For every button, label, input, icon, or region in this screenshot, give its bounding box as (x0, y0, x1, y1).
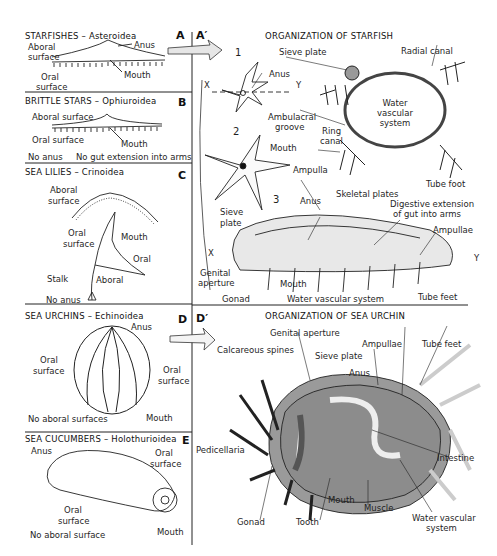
label-anus: Anus (31, 446, 52, 456)
taxon-name: Asteroidea (89, 31, 137, 41)
label-surface: surface (150, 459, 181, 469)
panel-letter-b: B (178, 96, 186, 109)
label-mouth: Mouth (124, 70, 151, 80)
label-ambulacral-groove: Ambulacral (268, 112, 316, 122)
group-name: SEA URCHINS (25, 311, 85, 321)
label-stalk: Stalk (47, 274, 68, 284)
axis-x: X (204, 80, 210, 90)
label-water-vascular-system: Water vascular system (287, 294, 384, 304)
label-ampullae: Ampullae (433, 225, 473, 235)
label-tooth: Tooth (296, 517, 319, 527)
panel-letter-a-prime: A′ (196, 29, 207, 42)
label-mouth: Mouth (270, 143, 297, 153)
label-anus: Anus (131, 322, 152, 332)
note-no-aboral-surfaces: No aboral surfaces (28, 414, 108, 424)
panel-a-title: STARFISHES – Asteroidea (25, 31, 136, 41)
panel-d-title: SEA URCHINS – Echinoidea (25, 311, 144, 321)
panel-letter-d-prime: D′ (196, 312, 208, 325)
label-genital-aperture: Genital (200, 268, 230, 278)
label-surface: surface (33, 366, 64, 376)
label-aboral-arm: Aboral (96, 275, 123, 285)
sea-urchin-drawing (74, 326, 150, 414)
label-sieve-plate: Sieve (220, 207, 243, 217)
panel-letter-e: E (182, 434, 190, 447)
label-calcareous-spines: Calcareous spines (217, 345, 294, 355)
label-skeletal-plates: Skeletal plates (336, 189, 398, 199)
label-genital-aperture: Genital aperture (270, 328, 340, 338)
label-water-vascular: Water (373, 98, 417, 108)
label-ampullae: Ampullae (362, 339, 402, 349)
label-surface: surface (28, 52, 59, 62)
label-surface: surface (48, 196, 79, 206)
label-surface: surface (36, 82, 67, 92)
label-aboral: Aboral (50, 185, 77, 195)
panel-b-title: BRITTLE STARS – Ophiuroidea (25, 96, 156, 106)
group-name: BRITTLE STARS (25, 96, 92, 106)
panel-letter-c: C (178, 169, 186, 182)
axis-y: Y (296, 80, 301, 90)
axis-x: X (208, 248, 214, 258)
label-mouth: Mouth (121, 232, 148, 242)
label-oral-surface: Oral surface (32, 135, 84, 145)
label-sieve-plate: Sieve plate (315, 351, 362, 361)
label-water-vascular-system: Water vascular (412, 513, 476, 523)
label-anus: Anus (134, 40, 155, 50)
figure-number-1: 1 (235, 48, 241, 58)
label-mouth: Mouth (280, 279, 307, 289)
label-muscle: Muscle (364, 503, 393, 513)
label-oral: Oral (155, 448, 173, 458)
label-ring-canal: Ring (322, 126, 341, 136)
label-water-vascular: system (373, 118, 417, 128)
label-surface: surface (158, 376, 189, 386)
label-tube-feet: Tube feet (418, 292, 457, 302)
label-pedicellaria: Pedicellaria (196, 445, 245, 455)
label-digestive-extension: of gut into arms (393, 209, 461, 219)
taxon-name: Ophiuroidea (102, 96, 156, 106)
label-tube-foot: Tube foot (426, 179, 465, 189)
group-name: SEA CUCUMBERS (25, 434, 101, 444)
label-oral-arm: Oral (133, 254, 151, 264)
label-intestine: Intestine (437, 453, 474, 463)
label-sieve-plate: Sieve plate (279, 47, 326, 57)
starfish-arm-section-drawing (233, 215, 453, 292)
label-digestive-extension: Digestive extension (390, 199, 474, 209)
taxon-name: Echinoidea (95, 311, 144, 321)
arrow-a-to-a-prime (168, 40, 222, 60)
label-surface: surface (58, 516, 89, 526)
label-aboral-surface: Aboral surface (32, 112, 94, 122)
label-genital-aperture: aperture (198, 278, 235, 288)
diagram-artwork (0, 0, 497, 556)
panel-c-title: SEA LILIES – Crinoidea (25, 167, 124, 177)
label-ampulla: Ampulla (293, 165, 328, 175)
note-no-anus: No anus (28, 152, 63, 162)
label-radial-canal: Radial canal (401, 46, 453, 56)
taxon-name: Holothurioidea (111, 434, 176, 444)
label-tube-feet: Tube feet (422, 339, 461, 349)
figure-number-3: 3 (273, 195, 279, 205)
label-gonad: Gonad (222, 294, 250, 304)
label-mouth: Mouth (328, 495, 355, 505)
taxon-name: Crinoidea (82, 167, 124, 177)
label-gonad: Gonad (237, 517, 265, 527)
urchin-panel-title: ORGANIZATION OF SEA URCHIN (265, 311, 405, 321)
label-oral: Oral (163, 365, 181, 375)
label-oral: Oral (41, 72, 59, 82)
label-aboral: Aboral (28, 42, 55, 52)
panel-e-title: SEA CUCUMBERS – Holothurioidea (25, 434, 177, 444)
label-oral: Oral (68, 228, 86, 238)
note-no-anus: No anus (46, 295, 81, 305)
label-oral: Oral (40, 355, 58, 365)
label-anus: Anus (300, 196, 321, 206)
label-mouth: Mouth (121, 139, 148, 149)
axis-y: Y (474, 253, 479, 263)
note-no-gut-extension: No gut extension into arms (76, 152, 191, 162)
group-name: SEA LILIES (25, 167, 72, 177)
label-sieve-plate: plate (220, 218, 242, 228)
note-no-aboral-surface: No aboral surface (30, 530, 105, 540)
label-ring-canal: canal (320, 136, 343, 146)
label-oral: Oral (64, 505, 82, 515)
starfish-panel-title: ORGANIZATION OF STARFISH (265, 31, 393, 41)
panel-letter-d: D (178, 313, 187, 326)
label-mouth: Mouth (146, 413, 173, 423)
label-surface: surface (63, 239, 94, 249)
